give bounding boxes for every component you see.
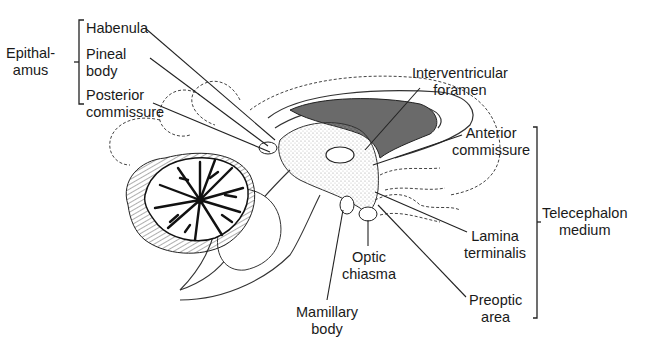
- anterior-commissure-label: Anterior commissure: [452, 125, 530, 159]
- interventricular-foramen-label: Interventricular foramen: [412, 65, 508, 99]
- posterior-commissure-label: Posterior commissure: [86, 87, 164, 121]
- pineal-body-label: Pineal body: [86, 46, 126, 80]
- lamina-terminalis-label: Lamina terminalis: [464, 228, 526, 262]
- interthalamic-adhesion: [326, 147, 354, 163]
- preoptic-area-label: Preoptic area: [469, 292, 522, 326]
- epithalamus-bracket: [74, 20, 84, 104]
- diencephalon: [279, 123, 379, 211]
- habenula-label: Habenula: [86, 20, 148, 37]
- optic-chiasma-label: Optic chiasma: [342, 249, 396, 283]
- optic-chiasma-shape: [359, 207, 377, 221]
- brain-diagram: Epithal- amus Telecephalon medium Habenu…: [0, 0, 658, 359]
- mamillary-body-shape: [340, 196, 354, 214]
- epithalamus-label: Epithal- amus: [6, 45, 55, 79]
- telencephalon-medium-label: Telecephalon medium: [542, 205, 627, 239]
- telencephalon-bracket: [533, 127, 541, 318]
- mamillary-body-label: Mamillary body: [296, 304, 358, 338]
